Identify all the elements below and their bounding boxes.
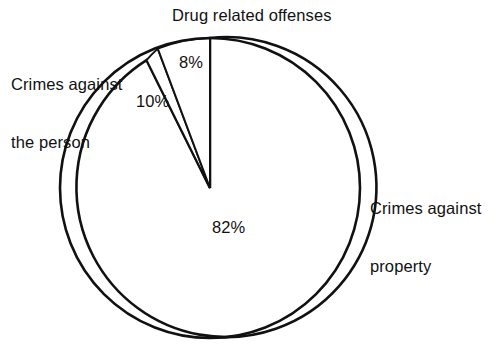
slice-value-drug-related-offenses: 8% bbox=[179, 53, 203, 72]
slice-label-property-line1: Crimes against bbox=[370, 199, 481, 218]
pie-chart-figure: Drug related offenses Crimes against the… bbox=[0, 0, 499, 362]
slice-label-person-line2: the person bbox=[11, 133, 122, 152]
slice-label-crimes-against-property: Crimes against property bbox=[370, 160, 481, 316]
slice-label-property-line2: property bbox=[370, 257, 481, 276]
slice-label-person-line1: Crimes against bbox=[11, 75, 122, 94]
slice-value-crimes-against-the-person: 10% bbox=[136, 92, 169, 111]
slice-label-drug-related-offenses: Drug related offenses bbox=[172, 6, 332, 25]
slice-label-crimes-against-the-person: Crimes against the person bbox=[11, 36, 122, 192]
slice-value-crimes-against-property: 82% bbox=[212, 218, 245, 237]
